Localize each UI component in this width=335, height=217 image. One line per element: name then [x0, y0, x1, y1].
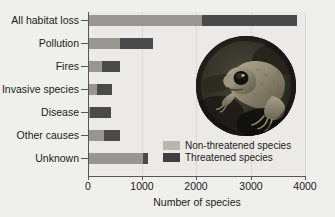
bar-segment-threatened — [102, 61, 120, 72]
bar-segment-non-threatened — [88, 153, 143, 164]
legend: Non-threatened species Threatened specie… — [163, 140, 291, 164]
gridline-1000 — [142, 12, 143, 176]
bar-chart-figure: All habitat loss Pollution Fires Invasiv… — [0, 0, 335, 217]
gridline-4000 — [305, 12, 306, 176]
bar-segment-non-threatened — [88, 84, 97, 95]
y-label-unknown: Unknown — [35, 153, 79, 164]
bar-segment-threatened — [202, 15, 297, 26]
bar-segment-non-threatened — [88, 61, 102, 72]
bar-segment-threatened — [97, 84, 112, 95]
y-tick-5 — [81, 135, 88, 136]
legend-label-non-threatened: Non-threatened species — [185, 140, 291, 151]
legend-swatch-non-threatened-icon — [163, 141, 180, 150]
bar-segment-non-threatened — [88, 38, 120, 49]
y-tick-3 — [81, 89, 88, 90]
bar-segment-threatened — [120, 38, 153, 49]
toad-photo — [196, 36, 296, 136]
y-label-disease: Disease — [41, 107, 79, 118]
legend-swatch-threatened-icon — [163, 153, 180, 162]
legend-item-non-threatened: Non-threatened species — [163, 140, 291, 151]
x-ticklabel-1000: 1000 — [130, 181, 153, 192]
x-ticklabel-0: 0 — [85, 181, 91, 192]
legend-label-threatened: Threatened species — [185, 152, 273, 163]
bar-segment-threatened — [104, 130, 120, 141]
y-tick-0 — [81, 20, 88, 21]
y-label-invasive-species: Invasive species — [2, 84, 79, 95]
bar-segment-threatened — [143, 153, 148, 164]
y-label-fires: Fires — [56, 61, 79, 72]
x-ticklabel-2000: 2000 — [184, 181, 207, 192]
y-tick-6 — [81, 158, 88, 159]
bar-segment-non-threatened — [88, 15, 202, 26]
y-tick-2 — [81, 66, 88, 67]
y-axis-line — [88, 12, 89, 176]
y-tick-1 — [81, 43, 88, 44]
y-axis-labels: All habitat loss Pollution Fires Invasiv… — [0, 12, 88, 175]
x-axis-line — [88, 176, 306, 177]
bar-segment-non-threatened — [88, 130, 104, 141]
x-ticklabel-3000: 3000 — [239, 181, 262, 192]
bar-segment-threatened — [90, 107, 112, 118]
legend-item-threatened: Threatened species — [163, 152, 291, 163]
y-label-all-habitat-loss: All habitat loss — [11, 15, 79, 26]
y-tick-4 — [81, 112, 88, 113]
y-label-pollution: Pollution — [39, 38, 79, 49]
x-axis-title: Number of species — [88, 197, 306, 208]
x-ticklabel-4000: 4000 — [293, 181, 316, 192]
y-label-other-causes: Other causes — [17, 130, 79, 141]
